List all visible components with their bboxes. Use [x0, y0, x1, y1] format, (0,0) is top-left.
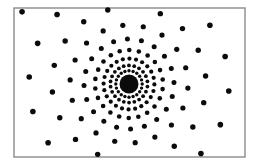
pattern-dot	[201, 100, 206, 105]
pattern-dot	[120, 23, 125, 28]
pattern-dot	[139, 38, 144, 43]
pattern-dot	[222, 54, 228, 60]
pattern-dot	[112, 139, 117, 144]
pattern-dot	[180, 105, 185, 110]
pattern-dot	[96, 67, 101, 72]
pattern-dot	[158, 11, 163, 16]
pattern-dot	[139, 104, 143, 108]
pattern-dot	[114, 104, 118, 108]
pattern-dot	[81, 19, 86, 24]
pattern-dot	[57, 115, 62, 120]
pattern-dot	[122, 64, 126, 68]
pattern-dot	[152, 134, 157, 139]
pattern-dot	[133, 107, 137, 111]
pattern-dot	[114, 125, 119, 130]
pattern-dot	[226, 88, 232, 94]
pattern-dot	[146, 85, 150, 89]
pattern-dot	[158, 68, 163, 73]
pattern-dot	[138, 90, 141, 93]
pattern-dot	[109, 80, 113, 84]
pattern-dot	[117, 114, 122, 119]
pattern-dot	[127, 57, 131, 61]
pattern-dot	[115, 60, 119, 64]
pattern-dot	[26, 74, 32, 80]
pattern-dot	[196, 48, 201, 53]
pattern-dot	[102, 88, 106, 92]
pattern-dot	[30, 109, 36, 115]
pattern-dot	[93, 130, 98, 135]
pattern-dot	[89, 56, 94, 61]
pattern-dot	[96, 96, 101, 101]
pattern-dot	[109, 85, 113, 89]
pattern-dot	[152, 76, 156, 80]
pattern-dot	[162, 54, 167, 59]
pattern-dot	[54, 12, 60, 18]
pattern-dot	[131, 95, 134, 98]
pattern-dot	[183, 65, 188, 70]
pattern-dot	[117, 66, 121, 70]
pattern-dot	[154, 117, 159, 122]
pattern-dot	[117, 90, 120, 93]
pattern-dot	[138, 75, 141, 78]
pattern-dot	[93, 86, 98, 91]
pattern-dot	[146, 79, 150, 83]
pattern-dot	[169, 66, 174, 71]
pattern-dot	[174, 47, 179, 52]
pattern-dot	[149, 70, 153, 74]
pattern-dot	[93, 77, 98, 82]
pattern-dot	[123, 70, 126, 73]
pattern-dot	[198, 151, 204, 157]
figure-frame	[0, 0, 257, 165]
pattern-dot	[109, 64, 113, 68]
pattern-dot	[113, 70, 117, 74]
pattern-dot	[137, 98, 141, 102]
pattern-dot	[125, 37, 130, 42]
pattern-dot	[102, 75, 106, 79]
pattern-dot	[171, 80, 176, 85]
pattern-dot	[122, 100, 126, 104]
pattern-dot	[132, 100, 136, 104]
figure-root	[0, 0, 257, 165]
pattern-dot	[218, 122, 224, 128]
pattern-dot	[73, 57, 78, 62]
pattern-dot	[127, 64, 131, 68]
pattern-dot	[145, 110, 150, 115]
pattern-dot	[123, 95, 126, 98]
pattern-dot	[126, 116, 131, 121]
pattern-dot	[73, 137, 78, 142]
pattern-dot	[91, 109, 96, 114]
pattern-dot	[120, 72, 123, 75]
pattern-dot	[127, 48, 132, 53]
pattern-dot	[149, 95, 153, 99]
pattern-dot	[79, 116, 84, 121]
solid-center-blob	[120, 75, 139, 94]
pattern-dot	[111, 39, 116, 44]
pattern-dot	[137, 66, 141, 70]
pattern-dot	[133, 140, 138, 145]
pattern-dot	[140, 78, 143, 81]
pattern-dot	[128, 126, 133, 131]
pattern-dot	[141, 94, 145, 98]
pattern-dot	[159, 32, 164, 37]
pattern-dot	[185, 86, 190, 91]
pattern-dot	[145, 64, 149, 68]
pattern-dot	[84, 97, 89, 102]
pattern-dot	[169, 122, 174, 127]
pattern-dot	[203, 73, 208, 78]
pattern-dot	[145, 100, 149, 104]
pattern-dot	[105, 69, 109, 73]
pattern-dot	[62, 38, 67, 43]
pattern-dot	[68, 77, 73, 82]
pattern-dot	[151, 89, 155, 93]
pattern-dot	[105, 7, 110, 12]
pattern-dot	[117, 49, 122, 54]
pattern-dot	[135, 72, 138, 75]
pattern-dot	[115, 78, 118, 81]
pattern-dot	[158, 96, 163, 101]
pattern-dot	[117, 98, 121, 102]
pattern-dot	[110, 90, 114, 94]
pattern-dot	[141, 70, 145, 74]
pattern-dot	[84, 40, 89, 45]
pattern-dot	[109, 53, 114, 58]
pattern-dot	[131, 70, 134, 73]
